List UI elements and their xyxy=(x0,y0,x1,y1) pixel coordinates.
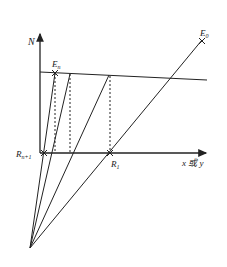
diagram: N x 或 y En E0 Rn+1 R1 xyxy=(0,0,227,267)
label-e0: E0 xyxy=(199,28,209,39)
ray-3 xyxy=(30,75,109,248)
upper-line xyxy=(40,72,207,80)
label-r1: R1 xyxy=(110,159,120,170)
x-axis-label: x 或 y xyxy=(181,158,204,168)
ray-to-e0 xyxy=(30,40,202,248)
label-en: En xyxy=(51,59,61,70)
y-axis-label: N xyxy=(27,36,36,47)
cross-e0 xyxy=(199,38,205,44)
label-rn1: Rn+1 xyxy=(15,149,32,160)
ray-2 xyxy=(30,74,70,248)
